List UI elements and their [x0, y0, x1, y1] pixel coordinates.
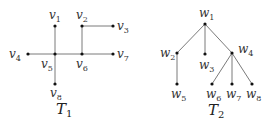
edge-w4-w6: [212, 53, 232, 84]
node-v1: [53, 24, 56, 27]
node-w5: [175, 82, 178, 85]
edge-w1-w2: [177, 24, 205, 53]
node-w4: [230, 51, 233, 54]
node-label-v2: v2: [76, 8, 88, 24]
node-label-v4: v4: [9, 47, 21, 63]
node-label-w3: w3: [199, 58, 214, 74]
node-w6: [210, 82, 213, 85]
node-v5: [53, 52, 56, 55]
node-w7: [230, 82, 233, 85]
tree-titles-layer: T1T2: [56, 100, 224, 120]
node-label-w2: w2: [160, 46, 175, 62]
node-label-w7: w7: [226, 87, 241, 103]
tree-title-2: T2: [208, 101, 224, 120]
node-label-v5: v5: [41, 57, 53, 73]
node-w1: [203, 22, 206, 25]
node-v4: [26, 52, 29, 55]
node-label-w1: w1: [199, 6, 214, 22]
node-label-v3: v3: [117, 19, 129, 35]
node-label-v1: v1: [49, 8, 61, 24]
node-w8: [250, 82, 253, 85]
node-label-w4: w4: [238, 42, 253, 58]
node-v2: [80, 24, 83, 27]
graph-canvas: v1v2v3v4v5v6v7v8w1w2w3w4w5w6w7w8 T1T2: [0, 0, 271, 125]
edge-w1-w4: [205, 24, 232, 53]
node-w2: [175, 51, 178, 54]
node-v7: [111, 52, 114, 55]
node-label-w8: w8: [246, 87, 261, 103]
node-label-v7: v7: [117, 47, 129, 63]
edges-layer: [28, 24, 252, 84]
node-v3: [111, 24, 114, 27]
node-w3: [203, 52, 206, 55]
node-label-w5: w5: [171, 87, 186, 103]
node-label-v6: v6: [76, 57, 88, 73]
tree-title-1: T1: [56, 100, 72, 119]
node-v6: [80, 52, 83, 55]
